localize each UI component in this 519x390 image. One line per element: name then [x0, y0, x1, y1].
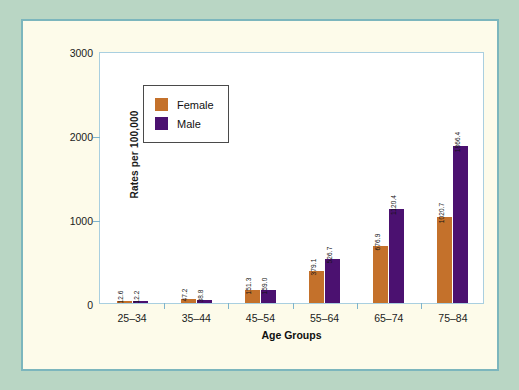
- y-tick-label: 2000: [70, 131, 93, 143]
- bar-female-35-44: 47.2: [181, 299, 196, 303]
- x-tick-label: 25–34: [117, 312, 146, 324]
- x-tick-label: 75–84: [438, 312, 467, 324]
- bar-value-label: 47.2: [181, 289, 188, 302]
- bar-value-label: 1020.7: [438, 203, 445, 223]
- chart-page: Rates per 100,000 0100020003000 25–3435–…: [0, 0, 519, 390]
- bar-value-label: 12.6: [117, 290, 124, 303]
- x-tick-mark: [164, 303, 165, 309]
- bar-value-label: 676.9: [374, 234, 381, 251]
- bar-female-25-34: 12.6: [117, 301, 132, 303]
- x-tick-label: 45–54: [246, 312, 275, 324]
- bar-value-label: 12.2: [133, 290, 140, 303]
- x-tick-mark: [228, 303, 229, 309]
- bar-value-label: 1120.4: [390, 195, 397, 215]
- y-tick-mark: [93, 137, 100, 138]
- bar-value-label: 1866.4: [454, 132, 461, 152]
- y-tick-label: 3000: [70, 47, 93, 59]
- x-tick-mark: [357, 303, 358, 309]
- bar-female-45-54: 151.3: [245, 290, 260, 303]
- y-tick-label: 0: [87, 299, 93, 311]
- legend-label: Female: [177, 99, 214, 111]
- x-axis-title: Age Groups: [100, 329, 483, 341]
- bar-male-35-44: 38.8: [197, 300, 212, 303]
- bar-male-75-84: 1866.4: [453, 146, 468, 303]
- legend-swatch-male-icon: [155, 117, 168, 130]
- bar-value-label: 159.0: [261, 277, 268, 294]
- legend-label: Male: [177, 118, 201, 130]
- bar-female-65-74: 676.9: [373, 246, 388, 303]
- bar-female-55-64: 379.1: [309, 271, 324, 303]
- y-tick-label: 1000: [70, 215, 93, 227]
- chart-legend: FemaleMale: [143, 85, 229, 143]
- chart-card: Rates per 100,000 0100020003000 25–3435–…: [21, 19, 499, 371]
- x-tick-label: 65–74: [374, 312, 403, 324]
- plot-area: Rates per 100,000 0100020003000 25–3435–…: [99, 52, 484, 304]
- legend-item-male: Male: [155, 114, 214, 133]
- bar-male-45-54: 159.0: [261, 290, 276, 303]
- legend-item-female: Female: [155, 95, 214, 114]
- y-axis-title: Rates per 100,000: [129, 85, 140, 225]
- bar-female-75-84: 1020.7: [437, 217, 452, 303]
- bar-value-label: 526.7: [326, 246, 333, 263]
- bar-male-25-34: 12.2: [133, 301, 148, 303]
- x-tick-mark: [421, 303, 422, 309]
- legend-swatch-female-icon: [155, 98, 168, 111]
- bar-value-label: 151.3: [245, 278, 252, 295]
- x-tick-label: 35–44: [182, 312, 211, 324]
- bar-value-label: 379.1: [310, 259, 317, 276]
- x-tick-label: 55–64: [310, 312, 339, 324]
- bar-value-label: 38.8: [197, 289, 204, 302]
- y-tick-mark: [93, 221, 100, 222]
- bar-male-65-74: 1120.4: [389, 209, 404, 303]
- x-tick-mark: [293, 303, 294, 309]
- bar-male-55-64: 526.7: [325, 259, 340, 303]
